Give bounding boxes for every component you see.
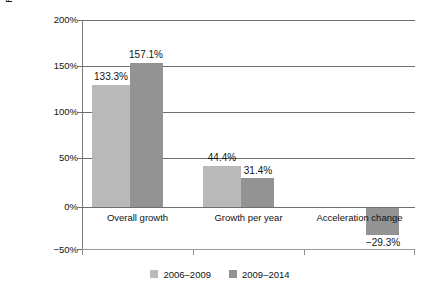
legend-swatch-icon-2009-2014 (229, 270, 237, 278)
bar-value-overall-growth-2006-2009: 133.3% (84, 71, 138, 83)
y-tick-label-0: 0% (14, 202, 78, 212)
x-category-label-acceleration-change: Acceleration change (304, 212, 415, 224)
y-axis-title: Rate of Growth of Enrollment (0, 0, 18, 56)
x-category-label-overall-growth: Overall growth (82, 212, 193, 224)
bar-chart: Rate of Growth of Enrollment 200% 150% 1… (0, 0, 440, 289)
legend-item-2006-2009: 2006–2009 (150, 269, 211, 280)
bar-value-growth-per-year-2009-2014: 31.4% (231, 165, 285, 177)
y-tick-label-neg50: −50% (14, 245, 78, 255)
y-tick-mark-200 (77, 20, 82, 21)
y-tick-label-100: 100% (14, 107, 78, 117)
x-tick-mark-3 (414, 250, 415, 255)
legend-label-2009-2014: 2009–2014 (242, 269, 290, 280)
y-tick-label-200: 200% (14, 15, 78, 25)
y-tick-mark-0 (77, 207, 82, 208)
x-category-label-growth-per-year: Growth per year (193, 212, 304, 224)
bar-value-overall-growth-2009-2014: 157.1% (119, 49, 173, 61)
y-tick-mark-150 (77, 66, 82, 67)
y-tick-mark-100 (77, 112, 82, 113)
gridline-200 (82, 20, 415, 21)
x-tick-mark-2 (304, 250, 305, 255)
chart-legend: 2006–2009 2009–2014 (0, 266, 440, 282)
x-axis-bottom-line (82, 249, 415, 250)
bar-overall-growth-2009-2014 (130, 63, 163, 207)
legend-swatch-icon-2006-2009 (150, 270, 158, 278)
y-tick-label-150: 150% (14, 61, 78, 71)
x-tick-mark-0 (82, 250, 83, 255)
bar-overall-growth-2006-2009 (92, 85, 130, 207)
bar-value-growth-per-year-2006-2009: 44.4% (195, 152, 249, 164)
y-tick-label-50: 50% (14, 153, 78, 163)
y-tick-mark-50 (77, 158, 82, 159)
x-tick-mark-1 (193, 250, 194, 255)
bar-growth-per-year-2009-2014 (241, 178, 274, 207)
plot-area: 133.3% 157.1% 44.4% 31.4% −29.3% Overall… (82, 20, 415, 250)
legend-label-2006-2009: 2006–2009 (163, 269, 211, 280)
bar-value-acceleration-change-2009-2014: −29.3% (344, 237, 422, 249)
legend-item-2009-2014: 2009–2014 (229, 269, 290, 280)
